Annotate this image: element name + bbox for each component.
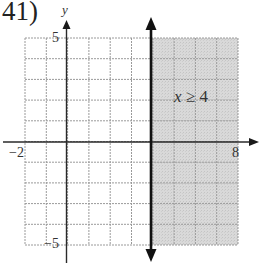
inequality-value: 4: [199, 87, 208, 106]
y-max-tick-label: 5: [52, 31, 59, 45]
y-min-tick-label: −5: [44, 237, 59, 251]
x-max-tick-label: 8: [232, 146, 239, 160]
x-min-tick-label: −2: [9, 146, 24, 160]
inequality-operator: ≥: [186, 87, 195, 106]
inequality-label: x ≥ 4: [174, 88, 208, 105]
x-axis-arrow-icon: [249, 138, 259, 146]
y-axis-arrow-icon: [63, 20, 71, 29]
coordinate-plane: [0, 0, 264, 263]
boundary-arrow-up-icon: [146, 17, 157, 30]
boundary-arrow-down-icon: [146, 249, 157, 262]
y-axis-label: y: [62, 3, 68, 16]
inequality-variable: x: [174, 87, 182, 106]
problem-number: 41): [2, 0, 38, 27]
